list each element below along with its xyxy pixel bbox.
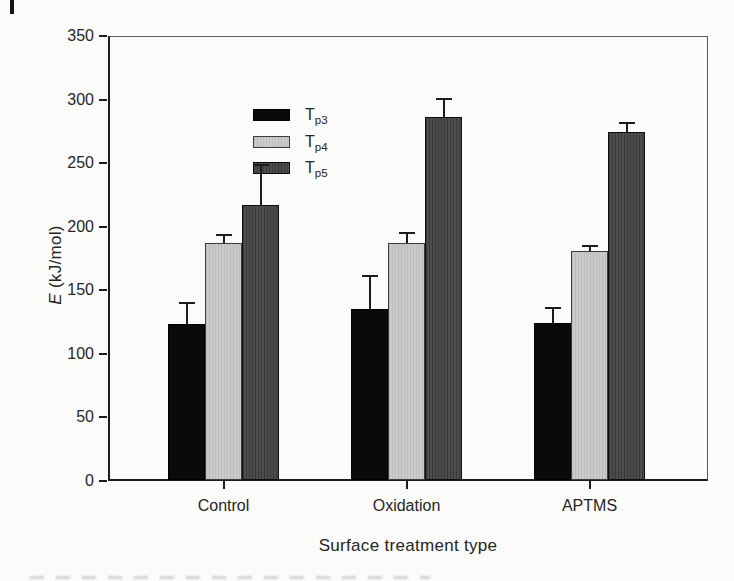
legend-item-tp5: Tp5 (253, 159, 373, 179)
legend-label-tp3: Tp3 (305, 106, 328, 126)
error-bar-tp5-aptms (626, 123, 628, 132)
y-tick-300 (99, 99, 107, 101)
y-tick-label-100: 100 (34, 346, 94, 362)
x-tick-label-oxidation: Oxidation (347, 497, 467, 515)
bar-tp3-aptms (534, 323, 571, 480)
x-tick-label-control: Control (164, 497, 284, 515)
error-bar-tp3-control (186, 303, 188, 325)
y-tick-label-150: 150 (34, 282, 94, 298)
error-cap-tp5-control (253, 164, 269, 166)
legend-item-tp4: Tp4 (253, 133, 373, 153)
y-tick-label-350: 350 (34, 28, 94, 44)
bar-tp3-oxidation (351, 309, 388, 480)
legend-item-tp3: Tp3 (253, 106, 373, 126)
figure: Tp3Tp4Tp5 E (kJ/mol) Surface treatment t… (0, 0, 734, 581)
x-tick-oxidation (406, 481, 408, 489)
y-tick-label-200: 200 (34, 219, 94, 235)
error-bar-tp5-oxidation (443, 99, 445, 117)
y-tick-200 (99, 226, 107, 228)
error-cap-tp3-control (179, 302, 195, 304)
x-tick-label-aptms: APTMS (530, 497, 650, 515)
y-tick-label-0: 0 (34, 473, 94, 489)
error-bar-tp4-oxidation (406, 233, 408, 243)
bar-tp4-control (205, 243, 242, 480)
bar-tp5-control (242, 205, 279, 480)
bar-tp5-oxidation (425, 117, 462, 480)
legend-label-tp5: Tp5 (305, 159, 328, 179)
error-bar-tp3-oxidation (369, 276, 371, 309)
y-tick-label-50: 50 (34, 409, 94, 425)
x-tick-control (223, 481, 225, 489)
error-cap-tp5-aptms (619, 122, 635, 124)
y-tick-100 (99, 353, 107, 355)
error-cap-tp3-oxidation (362, 275, 378, 277)
error-bar-tp4-control (223, 235, 225, 243)
y-tick-label-300: 300 (34, 92, 94, 108)
page-crop-mark (10, 0, 14, 14)
y-tick-250 (99, 162, 107, 164)
y-axis-title: E (kJ/mol) (46, 165, 66, 365)
error-cap-tp4-aptms (582, 245, 598, 247)
bar-tp4-aptms (571, 251, 608, 480)
legend-swatch-tp4 (253, 136, 290, 148)
error-bar-tp3-aptms (552, 308, 554, 323)
legend-swatch-tp3 (253, 109, 290, 121)
bar-tp5-aptms (608, 132, 645, 480)
bar-tp3-control (168, 324, 205, 480)
legend-label-tp4: Tp4 (305, 133, 328, 153)
bar-tp4-oxidation (388, 243, 425, 480)
y-tick-label-250: 250 (34, 155, 94, 171)
y-tick-150 (99, 289, 107, 291)
y-tick-350 (99, 35, 107, 37)
error-cap-tp4-control (216, 234, 232, 236)
cropped-caption-remnant (30, 576, 430, 579)
x-tick-aptms (589, 481, 591, 489)
y-tick-50 (99, 416, 107, 418)
error-bar-tp5-control (260, 165, 262, 204)
plot-area: Tp3Tp4Tp5 (108, 36, 708, 481)
y-tick-0 (99, 480, 107, 482)
error-cap-tp5-oxidation (436, 98, 452, 100)
error-cap-tp3-aptms (545, 307, 561, 309)
error-cap-tp4-oxidation (399, 232, 415, 234)
x-axis-title: Surface treatment type (108, 536, 708, 556)
